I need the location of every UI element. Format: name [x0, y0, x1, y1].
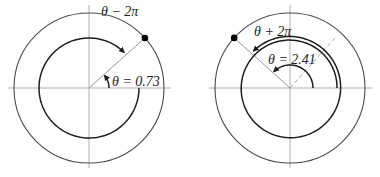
theta-arc	[105, 75, 109, 88]
point-marker	[142, 35, 149, 42]
point-marker	[231, 35, 238, 42]
diagram-canvas: θ = 0.73 θ − 2π θ = 2.41 θ + 2π	[0, 0, 380, 177]
left-panel: θ = 0.73 θ − 2π	[8, 4, 171, 168]
theta-arc	[274, 65, 313, 88]
theta-label: θ = 0.73	[112, 74, 160, 89]
theta-label: θ = 2.41	[268, 52, 316, 67]
right-panel: θ = 2.41 θ + 2π	[209, 5, 372, 168]
polar-angle-diagram: θ = 0.73 θ − 2π θ = 2.41 θ + 2π	[0, 0, 380, 177]
shifted-angle-label: θ + 2π	[254, 24, 292, 39]
shifted-angle-label: θ − 2π	[101, 4, 139, 19]
